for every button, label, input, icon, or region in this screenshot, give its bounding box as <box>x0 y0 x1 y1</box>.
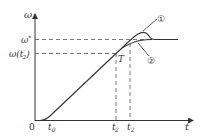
rising-curve <box>35 48 122 121</box>
diagram-canvas: ω t 0 ω* ω(t′2) t0 t′2 t2 T ① ② <box>0 0 207 136</box>
x-axis-label: t <box>185 121 190 132</box>
leader-2 <box>138 43 149 56</box>
point-t-label: T <box>118 54 125 64</box>
origin-label: 0 <box>29 122 35 132</box>
speed-time-diagram: ω t 0 ω* ω(t′2) t0 t′2 t2 T ① ② <box>0 0 207 136</box>
omega-t2prime-label: ω(t′2) <box>9 49 30 60</box>
t0-label: t0 <box>48 122 56 133</box>
curve-1-label: ① <box>157 14 165 24</box>
t2-label: t2 <box>127 122 135 133</box>
leader-1 <box>143 19 157 31</box>
curve-2-label: ② <box>147 56 155 66</box>
omega-star-label: ω* <box>21 34 31 45</box>
y-axis-label: ω <box>24 9 32 20</box>
t2prime-label: t′2 <box>112 121 119 133</box>
